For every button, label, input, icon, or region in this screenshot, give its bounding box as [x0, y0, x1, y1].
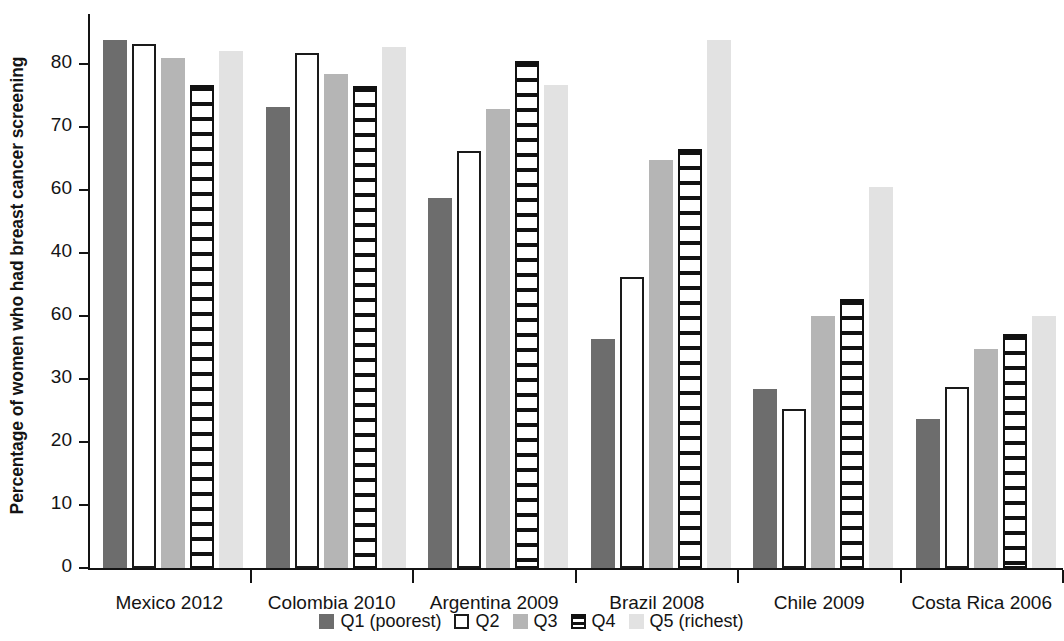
chart-legend: Q1 (poorest)Q2Q3Q4Q5 (richest): [0, 611, 1063, 631]
bar-q3-1: [324, 74, 348, 568]
bar-q3-2: [486, 109, 510, 568]
legend-label-q5: Q5 (richest): [650, 611, 744, 631]
bar-q1-5: [916, 419, 940, 568]
x-axis-tick: [737, 570, 739, 583]
bar-q5-4: [869, 187, 893, 569]
legend-swatch-q1: [319, 614, 334, 629]
bar-q1-0: [103, 40, 127, 568]
legend-label-q1: Q1 (poorest): [340, 611, 441, 631]
bar-q2-1: [295, 53, 319, 568]
bar-q3-3: [649, 160, 673, 568]
y-axis-title-text: Percentage of women who had breast cance…: [8, 56, 29, 514]
bar-q5-3: [707, 40, 731, 568]
bar-q4-2: [515, 61, 539, 568]
legend-label-q4: Q4: [592, 611, 616, 631]
x-axis-tick: [250, 570, 252, 583]
bars-layer: [88, 14, 1063, 570]
x-axis-tick: [900, 570, 902, 583]
legend-swatch-q5: [629, 614, 644, 629]
bar-q2-0: [132, 44, 156, 568]
y-axis-tick-label: 0: [61, 555, 72, 576]
bar-q1-1: [266, 107, 290, 568]
bar-q3-4: [811, 316, 835, 568]
bar-q3-5: [974, 349, 998, 568]
bar-q2-4: [782, 409, 806, 568]
legend-swatch-q4: [571, 614, 586, 629]
legend-item-q2: Q2: [454, 611, 499, 631]
bar-q4-5: [1003, 334, 1027, 568]
x-axis-tick: [575, 570, 577, 583]
legend-item-q3: Q3: [513, 611, 558, 631]
y-axis-tick-label: 70: [51, 114, 72, 135]
legend-swatch-q3: [513, 614, 528, 629]
y-axis-title: Percentage of women who had breast cance…: [0, 0, 36, 570]
bar-q5-0: [219, 51, 243, 568]
y-axis-tick-label: 80: [51, 51, 72, 72]
bar-q1-4: [753, 389, 777, 568]
bar-q5-5: [1032, 316, 1056, 568]
bar-q3-0: [161, 58, 185, 568]
plot-area: 01020306040607080 Mexico 2012Colombia 20…: [88, 14, 1063, 570]
bar-q4-4: [840, 299, 864, 568]
legend-label-q3: Q3: [534, 611, 558, 631]
y-axis-tick-label: 40: [51, 240, 72, 261]
bar-q4-3: [678, 149, 702, 568]
y-axis-tick-label: 10: [51, 492, 72, 513]
bar-q1-3: [591, 339, 615, 568]
legend-swatch-q2: [454, 614, 469, 629]
legend-item-q1: Q1 (poorest): [319, 611, 441, 631]
bar-q4-1: [353, 86, 377, 568]
bar-q2-5: [945, 387, 969, 568]
y-axis-tick-label: 60: [51, 303, 72, 324]
x-axis-tick: [412, 570, 414, 583]
bar-q5-1: [382, 47, 406, 568]
bar-q5-2: [544, 85, 568, 568]
y-axis-tick-label: 30: [51, 366, 72, 387]
legend-item-q5: Q5 (richest): [629, 611, 744, 631]
bar-q2-2: [457, 151, 481, 568]
y-axis-tick-label: 20: [51, 429, 72, 450]
bar-q4-0: [190, 85, 214, 568]
bar-q1-2: [428, 198, 452, 568]
legend-label-q2: Q2: [475, 611, 499, 631]
legend-item-q4: Q4: [571, 611, 616, 631]
y-axis-tick-label: 60: [51, 177, 72, 198]
bar-q2-3: [620, 277, 644, 568]
